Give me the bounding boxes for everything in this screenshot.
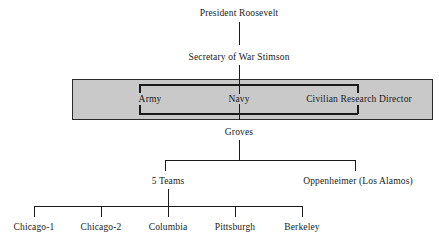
node-president-roosevelt: President Roosevelt [200,8,279,19]
node-civilian-research-director: Civilian Research Director [306,94,412,105]
bracket-bottom-right-tick [357,105,359,114]
node-groves: Groves [225,127,253,138]
node-team-pittsburgh: Pittsburgh [215,222,255,233]
node-team-berkeley: Berkeley [284,222,320,233]
connector-team-4-drop [235,206,236,217]
connector-box-navy-bottom [239,104,240,120]
bracket-bottom-left-tick [139,105,141,114]
connector-team-2-drop [101,206,102,217]
connector-team-3-drop [168,206,169,217]
connector-groves-to-split [239,140,240,161]
node-navy: Navy [228,94,249,105]
connector-team-5-drop [302,206,303,217]
node-team-columbia: Columbia [149,222,188,233]
connector-president-to-secretary [239,22,240,45]
node-oppenheimer: Oppenheimer (Los Alamos) [303,176,413,187]
node-team-chicago-2: Chicago-2 [81,222,122,233]
bracket-top-horizontal [139,84,358,86]
node-secretary-of-war: Secretary of War Stimson [188,52,289,63]
connector-split-right-drop [355,160,356,171]
node-five-teams: 5 Teams [152,176,185,187]
bracket-bottom-horizontal [139,113,358,115]
node-team-chicago-1: Chicago-1 [14,222,55,233]
node-army: Army [139,94,162,105]
connector-box-navy-top [239,80,240,94]
connector-split-left-drop [165,160,166,171]
bracket-top-right-tick [357,84,359,93]
connector-team-1-drop [34,206,35,217]
bracket-top-left-tick [139,84,141,93]
connector-split-horizontal [165,160,356,161]
connector-five-teams-to-bar [168,189,169,206]
org-chart-diagram: President Roosevelt Secretary of War Sti… [0,0,439,245]
